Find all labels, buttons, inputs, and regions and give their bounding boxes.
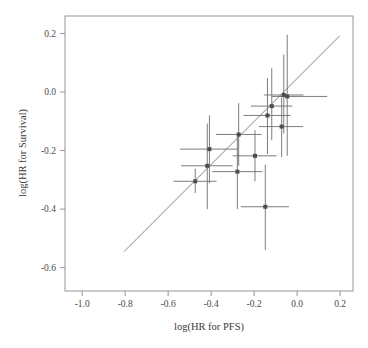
x-axis-label: log(HR for PFS) [174, 321, 245, 333]
data-point-marker [285, 94, 289, 98]
x-tick-label: -1.0 [75, 299, 90, 309]
x-tick-label: -0.4 [204, 299, 219, 309]
x-tick-label: -0.6 [161, 299, 176, 309]
data-point-marker [235, 170, 239, 174]
regression-line [124, 36, 340, 252]
data-point-marker [263, 205, 267, 209]
x-tick-label: -0.2 [247, 299, 262, 309]
plot-canvas: -1.0-0.8-0.6-0.4-0.20.00.2 0.20.0-0.2-0.… [0, 0, 368, 348]
y-tick-label: 0.2 [44, 29, 56, 39]
fit-line [124, 36, 340, 252]
data-point-marker [282, 93, 286, 97]
y-tick-label: -0.2 [41, 146, 56, 156]
y-tick-label: -0.4 [41, 204, 56, 214]
x-tick-label: -0.8 [118, 299, 133, 309]
data-point-marker [265, 113, 269, 117]
data-point-marker [270, 104, 274, 108]
data-point-marker [237, 132, 241, 136]
data-point-marker [280, 125, 284, 129]
data-point-marker [193, 179, 197, 183]
data-point-marker [207, 147, 211, 151]
data-point-marker [205, 164, 209, 168]
y-tick-label: 0.0 [44, 87, 56, 97]
data-point-marker [253, 154, 257, 158]
x-axis-ticks: -1.0-0.8-0.6-0.4-0.20.00.2 [75, 291, 347, 309]
y-axis-label: log(HR for Survival) [17, 108, 29, 197]
y-axis-ticks: 0.20.0-0.2-0.4-0.6 [41, 29, 65, 273]
error-bars [174, 35, 328, 250]
figure-scatter-plot: -1.0-0.8-0.6-0.4-0.20.00.2 0.20.0-0.2-0.… [0, 0, 368, 348]
x-tick-label: 0.0 [291, 299, 303, 309]
x-tick-label: 0.2 [334, 299, 346, 309]
y-tick-label: -0.6 [41, 263, 56, 273]
